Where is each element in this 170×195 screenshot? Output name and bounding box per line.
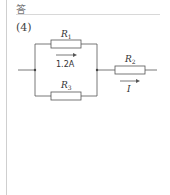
circuit-diagram: R1 1.2A R3 R2 I [0,0,170,195]
junction-right [96,69,98,71]
total-current-arrow-icon [136,79,140,83]
branch-current-label: 1.2A [56,60,75,69]
total-current-label: I [126,84,131,94]
resistor-r2-label: R2 [124,54,136,65]
branch-current-arrow-icon [73,53,77,57]
resistor-r1-label: R1 [60,29,72,40]
resistor-r3-label: R3 [60,80,72,91]
junction-left [34,69,36,71]
